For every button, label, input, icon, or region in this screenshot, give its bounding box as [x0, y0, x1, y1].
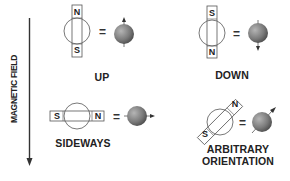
- label-arbitrary: ARBITRARY: [198, 144, 278, 155]
- magnetic-field-arrow: [27, 18, 33, 166]
- equals-sign: =: [99, 26, 106, 38]
- pole-label-n: N: [92, 111, 104, 122]
- spin-sphere-diagonal: [252, 107, 276, 133]
- label-down: DOWN: [207, 70, 257, 81]
- magnetic-field-label: MAGNETIC FIELD: [9, 53, 19, 125]
- spin-sphere-up: [114, 17, 134, 47]
- label-sideways: SIDEWAYS: [53, 138, 113, 149]
- pole-label-s: S: [72, 45, 82, 56]
- equals-sign: =: [113, 111, 120, 123]
- spin-sphere-down: [248, 20, 268, 51]
- label-orientation: ORIENTATION: [198, 156, 278, 167]
- pole-label-n: N: [207, 47, 217, 58]
- pole-label-n: N: [229, 99, 241, 110]
- pole-label-s: S: [199, 129, 211, 140]
- equals-sign: =: [233, 28, 240, 40]
- equals-sign: =: [239, 117, 246, 129]
- pole-label-n: N: [72, 7, 82, 18]
- label-up: UP: [82, 72, 122, 83]
- pole-label-s: S: [51, 111, 63, 122]
- pole-label-s: S: [207, 8, 217, 19]
- spin-sphere-sideways: [124, 106, 155, 126]
